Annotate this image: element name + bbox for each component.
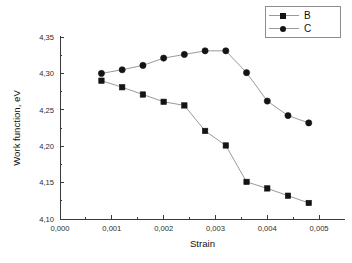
legend-label-b: B <box>304 10 311 21</box>
data-point-c <box>264 98 270 104</box>
legend-item-c[interactable]: C <box>269 22 336 35</box>
data-point-b <box>265 186 270 191</box>
data-point-c <box>223 48 229 54</box>
data-point-c <box>119 67 125 73</box>
data-point-c <box>181 51 187 57</box>
y-tick-label: 4,30 <box>39 69 54 78</box>
y-tick-label: 4,25 <box>39 106 54 115</box>
y-tick-label: 4,15 <box>39 178 54 187</box>
x-tick-label: 0,004 <box>258 224 277 233</box>
x-axis-title: Strain <box>190 238 215 249</box>
chart-legend: B C <box>265 6 341 38</box>
series-markers-group <box>98 48 311 206</box>
data-point-b <box>119 85 124 90</box>
data-point-b <box>140 92 145 97</box>
y-axis-title: Work function, eV <box>11 90 22 166</box>
x-tick-label: 0,002 <box>154 224 173 233</box>
chart-container: 4,104,154,204,254,304,35 0,0000,0010,002… <box>0 0 352 263</box>
series-line-c <box>101 51 308 123</box>
x-tick-label: 0,001 <box>102 224 121 233</box>
y-tick-label: 4,10 <box>39 215 54 224</box>
data-point-b <box>244 179 249 184</box>
data-point-b <box>182 103 187 108</box>
plot-area: 4,104,154,204,254,304,35 0,0000,0010,002… <box>0 0 352 263</box>
data-point-b <box>202 128 207 133</box>
data-point-b <box>285 193 290 198</box>
data-point-b <box>161 99 166 104</box>
data-point-c <box>243 70 249 76</box>
square-marker-icon <box>280 13 286 19</box>
x-tick-label: 0,005 <box>310 224 329 233</box>
data-point-b <box>223 143 228 148</box>
data-point-c <box>98 70 104 76</box>
x-axis-ticks: 0,0000,0010,0020,0030,0040,005 <box>50 215 328 233</box>
series-lines-group <box>101 51 308 203</box>
legend-item-b[interactable]: B <box>269 9 336 22</box>
data-point-c <box>306 120 312 126</box>
legend-label-c: C <box>304 23 311 34</box>
data-point-c <box>161 55 167 61</box>
data-point-c <box>285 113 291 119</box>
data-point-b <box>99 78 104 83</box>
data-point-c <box>202 48 208 54</box>
x-tick-label: 0,003 <box>206 224 225 233</box>
legend-sample-b <box>269 10 299 21</box>
data-point-b <box>306 200 311 205</box>
x-tick-label: 0,000 <box>50 224 69 233</box>
y-tick-label: 4,35 <box>39 33 54 42</box>
data-point-c <box>140 62 146 68</box>
circle-marker-icon <box>280 26 286 32</box>
series-line-b <box>101 81 308 203</box>
legend-sample-c <box>269 23 299 34</box>
y-tick-label: 4,20 <box>39 142 54 151</box>
